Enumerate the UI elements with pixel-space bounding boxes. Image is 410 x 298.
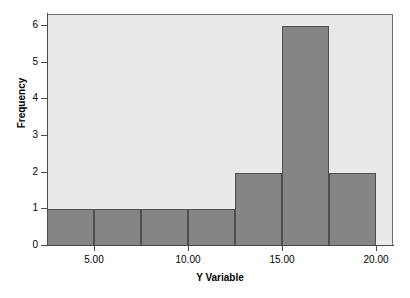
y-axis-tick [41, 172, 47, 173]
x-axis-tick [376, 245, 377, 251]
y-axis-tick [41, 62, 47, 63]
y-axis-tick [41, 25, 47, 26]
y-axis-line [47, 13, 48, 246]
histogram-bar [47, 209, 94, 246]
x-axis-tick [282, 245, 283, 251]
x-axis-tick-label: 10.00 [158, 254, 218, 265]
histogram-bar [235, 173, 282, 246]
y-axis-tick-label: 0 [12, 240, 38, 250]
x-axis-tick-label: 5.00 [64, 254, 124, 265]
y-axis-tick [41, 98, 47, 99]
plot-area [47, 14, 393, 245]
histogram-bar [282, 26, 329, 246]
histogram-bar [141, 209, 188, 246]
x-axis-tick-label: 20.00 [346, 254, 406, 265]
y-axis-tick [41, 135, 47, 136]
y-axis-tick [41, 245, 47, 246]
histogram-bar [329, 173, 376, 246]
y-axis-tick [41, 208, 47, 209]
x-axis-tick-label: 15.00 [252, 254, 312, 265]
y-axis-tick-label: 3 [12, 130, 38, 140]
y-axis-tick-label: 6 [12, 20, 38, 30]
x-axis-tick [188, 245, 189, 251]
x-axis-line [46, 245, 394, 246]
histogram-bar [94, 209, 141, 246]
x-axis-tick [94, 245, 95, 251]
y-axis-tick-label: 1 [12, 203, 38, 213]
histogram-chart: Frequency 0123456 5.0010.0015.0020.00 Y … [0, 0, 410, 298]
y-axis-tick-label: 4 [12, 93, 38, 103]
y-axis-tick-label: 2 [12, 167, 38, 177]
x-axis-title: Y Variable [47, 272, 393, 283]
histogram-bar [188, 209, 235, 246]
y-axis-tick-label: 5 [12, 57, 38, 67]
